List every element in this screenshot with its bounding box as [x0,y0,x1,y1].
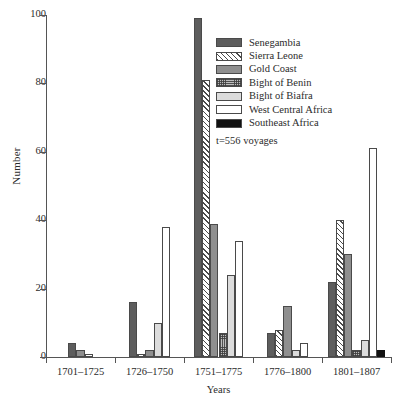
bar-westcentral-3 [300,343,308,357]
bar-senegambia-2 [194,18,202,357]
bar-bightbiafra-1 [154,323,162,357]
x-tick-mark [115,357,116,363]
legend-label: Sierra Leone [249,50,303,62]
bar-senegambia-1 [129,302,137,357]
bar-goldcoast-1 [145,350,153,357]
bar-senegambia-0 [68,343,76,357]
bar-bightbenin-2 [219,333,227,357]
x-axis-title: Years [46,384,391,395]
bar-chart: Number 020406080100 1701–17251726–175017… [0,0,398,407]
x-tick-mark [322,357,323,363]
y-tick-label: 80 [12,77,46,87]
legend-item-westcentral: West Central Africa [216,103,332,116]
legend-label: Bight of Benin [249,77,311,89]
bar-westcentral-0 [85,354,93,357]
bar-sierraleone-1 [137,354,145,357]
bar-southeast-4 [377,350,385,357]
y-tick-label: 60 [12,146,46,156]
x-tick-mark [184,357,185,363]
bar-senegambia-4 [328,282,336,357]
legend-annotation: t=556 voyages [216,135,332,146]
legend-swatch-icon [216,119,242,128]
y-tick-label: 0 [12,351,46,361]
legend-item-goldcoast: Gold Coast [216,63,332,76]
bar-senegambia-3 [267,333,275,357]
bar-bightbiafra-4 [361,340,369,357]
x-group-label-3: 1776–1800 [253,366,322,377]
bar-westcentral-4 [369,148,377,357]
bar-bightbiafra-2 [227,275,235,357]
legend-label: Gold Coast [249,63,297,75]
legend-label: West Central Africa [249,104,332,116]
legend-swatch-icon [216,65,242,74]
legend-item-senegambia: Senegambia [216,36,332,49]
y-axis-title: Number [10,116,22,216]
legend-item-bightbenin: Bight of Benin [216,76,332,89]
legend-swatch-icon [216,92,242,101]
bar-westcentral-1 [162,227,170,357]
x-axis-line [46,357,391,358]
bar-goldcoast-0 [76,350,84,357]
x-group-label-0: 1701–1725 [46,366,115,377]
bar-bightbiafra-3 [292,350,300,357]
bar-westcentral-2 [235,241,243,357]
bar-sierraleone-3 [275,330,283,357]
legend-label: Senegambia [249,37,300,49]
y-tick-label: 40 [12,214,46,224]
legend-label: Bight of Biafra [249,90,313,102]
bar-bightbenin-4 [352,350,360,357]
x-tick-mark [391,357,392,363]
legend-swatch-icon [216,52,242,61]
x-group-label-2: 1751–1775 [184,366,253,377]
legend-label: Southeast Africa [249,117,319,129]
legend-swatch-icon [216,105,242,114]
legend-item-bightbiafra: Bight of Biafra [216,90,332,103]
legend-item-sierraleone: Sierra Leone [216,49,332,62]
x-tick-mark [46,357,47,363]
bar-goldcoast-2 [210,224,218,357]
x-group-label-1: 1726–1750 [115,366,184,377]
x-group-label-4: 1801–1807 [322,366,391,377]
bar-goldcoast-3 [283,306,291,357]
bar-goldcoast-4 [344,254,352,357]
legend-item-southeast: Southeast Africa [216,116,332,129]
legend-swatch-icon [216,78,242,87]
x-tick-mark [253,357,254,363]
y-tick-label: 20 [12,283,46,293]
bar-sierraleone-2 [202,80,210,357]
bar-sierraleone-4 [336,220,344,357]
legend: SenegambiaSierra LeoneGold CoastBight of… [216,36,332,146]
y-tick-label: 100 [12,9,46,19]
legend-swatch-icon [216,38,242,47]
